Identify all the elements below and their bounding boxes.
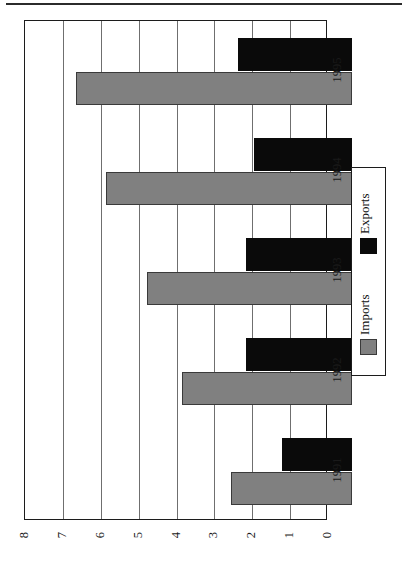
plot-frame — [24, 20, 327, 520]
value-tick-7: 7 — [51, 522, 73, 548]
category-label-1993: 1993 — [327, 241, 347, 299]
value-tick-5: 5 — [127, 522, 149, 548]
value-tick-8: 8 — [13, 522, 35, 548]
value-tick-3: 3 — [202, 522, 224, 548]
legend-label-imports: Imports — [356, 263, 374, 335]
value-tick-0: 0 — [316, 522, 338, 548]
bar-chart: 876543210 19951994199319921991 ImportsEx… — [0, 0, 407, 569]
chart-legend: ImportsExports — [351, 167, 386, 376]
value-tick-2: 2 — [240, 522, 262, 548]
value-tick-4: 4 — [165, 522, 187, 548]
legend-label-exports: Exports — [356, 162, 374, 234]
gridline — [63, 21, 64, 519]
category-label-1992: 1992 — [327, 341, 347, 399]
bar-imports-1993 — [147, 272, 352, 305]
bar-imports-1995 — [76, 72, 352, 105]
value-tick-6: 6 — [89, 522, 111, 548]
gray-swatch — [360, 339, 377, 355]
category-label-1994: 1994 — [327, 141, 347, 199]
category-label-1995: 1995 — [327, 41, 347, 99]
value-tick-1: 1 — [278, 522, 300, 548]
bar-imports-1994 — [106, 172, 352, 205]
black-swatch — [360, 238, 377, 254]
category-label-1991: 1991 — [327, 441, 347, 499]
